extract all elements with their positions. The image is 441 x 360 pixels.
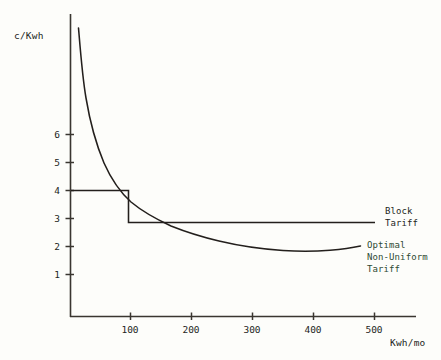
chart-figure: c/Kwh Kwh/mo 6 5 4 3 2 1 100 200 300 400… xyxy=(0,0,441,360)
x-tick-label-500: 500 xyxy=(357,324,391,335)
optimal-tariff-curve xyxy=(79,28,361,251)
x-tick-label-300: 300 xyxy=(235,324,269,335)
x-axis-title: Kwh/mo xyxy=(390,337,426,348)
block-tariff-label-line1: Block xyxy=(385,206,413,217)
x-tick-label-400: 400 xyxy=(296,324,330,335)
y-tick-label-6: 6 xyxy=(46,129,60,140)
y-tick-label-1: 1 xyxy=(46,269,60,280)
x-tick-label-200: 200 xyxy=(174,324,208,335)
y-tick-label-2: 2 xyxy=(46,241,60,252)
x-tick-label-100: 100 xyxy=(113,324,147,335)
block-tariff-label-line2: Tariff xyxy=(385,218,418,229)
chart-plot-area xyxy=(0,0,441,360)
optimal-tariff-label-line3: Tariff xyxy=(367,264,400,275)
y-tick-label-4: 4 xyxy=(46,185,60,196)
y-tick-label-5: 5 xyxy=(46,157,60,168)
block-tariff-step xyxy=(71,191,375,223)
optimal-tariff-label-line1: Optimal xyxy=(367,240,406,251)
y-axis-title: c/Kwh xyxy=(14,30,44,41)
optimal-tariff-label-line2: Non-Uniform xyxy=(367,252,428,263)
y-tick-label-3: 3 xyxy=(46,213,60,224)
